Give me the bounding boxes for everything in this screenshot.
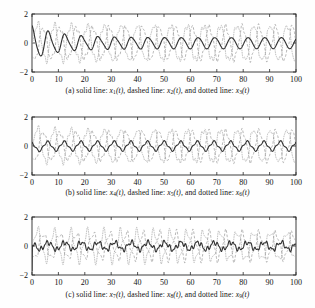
caption-b-label: (b) [65,188,74,197]
panel-c-xtick-2: 20 [81,278,89,287]
panel-c-ytick-1: 0 [24,242,28,251]
panel-a-caption: (a) solid line: x1(t), dashed line: x2(t… [0,86,315,95]
panel-b-xticklabels: 0102030405060708090100 [30,178,302,187]
caption-b-arg3: (t) [242,188,249,197]
panel-a-ytick-1: 0 [24,39,28,48]
caption-a-arg3: (t) [242,86,249,95]
panel-c-xtick-10: 100 [290,278,302,287]
panel-c-xtick-6: 60 [186,278,194,287]
caption-c-text3: and dotted line: [185,290,234,299]
multi-panel-figure: 0102030405060708090100 −202 (a) solid li… [0,0,315,308]
panel-b-xtick-8: 80 [239,178,247,187]
caption-a-text1: solid line: [76,86,107,95]
panel-c-yticklabels: −202 [19,213,28,280]
panel-a-xtick-7: 70 [213,75,221,84]
panel-b-xtick-2: 20 [81,178,89,187]
panel-c-xtick-4: 40 [134,278,142,287]
caption-c-text2: dashed line: [127,290,165,299]
panel-c-xtick-5: 50 [160,278,168,287]
panel-b-xtick-1: 10 [54,178,62,187]
panel-a-xtick-6: 60 [186,75,194,84]
panel-a: 0102030405060708090100 −202 [0,0,315,84]
panel-a-xtick-5: 50 [160,75,168,84]
panel-a-svg: 0102030405060708090100 −202 [0,0,315,84]
panel-b-xtick-5: 50 [160,178,168,187]
panel-b-caption: (b) solid line: x4(t), dashed line: x5(t… [0,188,315,197]
caption-a-text3: and dotted line: [185,86,234,95]
panel-b-xtick-4: 40 [134,178,142,187]
panel-a-ytick-2: 2 [24,10,28,19]
panel-a-xtick-1: 10 [54,75,62,84]
panel-b-plot: 0102030405060708090100 −202 [0,103,315,187]
panel-b-xtick-9: 90 [266,178,274,187]
panel-c-xticklabels: 0102030405060708090100 [30,278,302,287]
caption-a-arg1: (t), [116,86,125,95]
panel-c-xtick-3: 30 [107,278,115,287]
panel-c-xtick-0: 0 [30,278,34,287]
panel-a-xtick-8: 80 [239,75,247,84]
caption-c-arg1: (t), [116,290,125,299]
panel-b-xtick-7: 70 [213,178,221,187]
caption-b-text1: solid line: [77,188,108,197]
panel-b-xtick-0: 0 [30,178,34,187]
panel-b-xtick-3: 30 [107,178,115,187]
panel-c-ytick-2: 2 [24,213,28,222]
panel-b-ytick-2: 2 [24,113,28,122]
panel-a-xtick-3: 30 [107,75,115,84]
panel-c-xtick-8: 80 [239,278,247,287]
panel-a-xtick-10: 100 [290,75,302,84]
panel-c-ytick-0: −2 [19,271,28,280]
panel-b-svg: 0102030405060708090100 −202 [0,103,315,187]
caption-a-text2: dashed line: [127,86,165,95]
caption-c-text1: solid line: [76,290,107,299]
caption-c-label: (c) [66,290,75,299]
panel-b: 0102030405060708090100 −202 [0,103,315,187]
caption-a-label: (a) [66,86,75,95]
panel-b-xtick-10: 100 [290,178,302,187]
panel-c-xtick-7: 70 [213,278,221,287]
panel-a-ytick-0: −2 [19,68,28,77]
panel-c-xtick-1: 10 [54,278,62,287]
caption-b-text2: dashed line: [128,188,166,197]
panel-b-yticklabels: −202 [19,113,28,180]
caption-c-arg2: (t), [173,290,182,299]
panel-a-xtick-9: 90 [266,75,274,84]
panel-a-plot: 0102030405060708090100 −202 [0,0,315,84]
panel-b-xtick-6: 60 [186,178,194,187]
panel-a-xticklabels: 0102030405060708090100 [30,75,302,84]
panel-a-yticklabels: −202 [19,10,28,77]
caption-a-arg2: (t), [173,86,182,95]
panel-b-ytick-0: −2 [19,171,28,180]
panel-a-xtick-2: 20 [81,75,89,84]
panel-c-svg: 0102030405060708090100 −202 [0,203,315,287]
panel-b-ytick-1: 0 [24,142,28,151]
panel-a-xtick-4: 40 [134,75,142,84]
caption-b-arg1: (t), [116,188,125,197]
caption-b-arg2: (t), [174,188,183,197]
panel-c: 0102030405060708090100 −202 [0,203,315,287]
caption-c-arg3: (t) [242,290,249,299]
panel-c-xtick-9: 90 [266,278,274,287]
panel-c-caption: (c) solid line: x7(t), dashed line: x8(t… [0,290,315,299]
caption-b-text3: and dotted line: [185,188,234,197]
panel-c-plot: 0102030405060708090100 −202 [0,203,315,287]
panel-a-xtick-0: 0 [30,75,34,84]
